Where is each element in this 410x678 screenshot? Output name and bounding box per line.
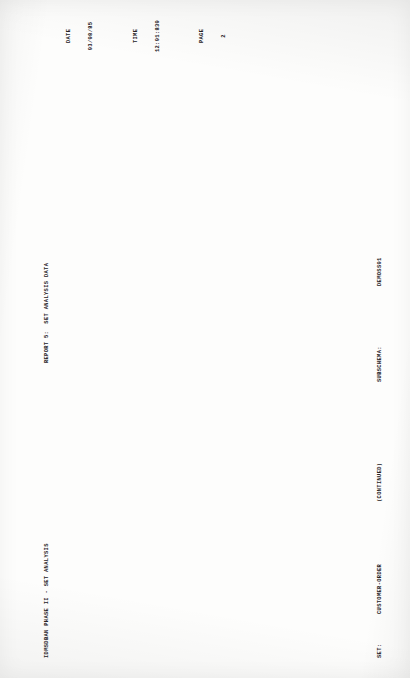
spacer — [295, 18, 302, 658]
spacer — [406, 18, 410, 658]
continued-marker: (CONTINUED) — [377, 382, 384, 502]
date-label: DATE — [66, 18, 73, 54]
time-stamp: TIME 12:01:830 — [118, 18, 177, 54]
set-label: SET: — [377, 614, 384, 658]
header-stamp-group: DATE 03/08/85 TIME 12:01:830 PAGE 2 — [44, 18, 251, 83]
spacer — [318, 18, 325, 658]
set-row: SET: CUSTOMER-ORDER (CONTINUED) SUBSCHEM… — [377, 18, 384, 658]
report-body: IDMSDBAN PHASE II - SET ANALYSIS REPORT … — [0, 0, 410, 678]
program-title: IDMSDBAN PHASE II - SET ANALYSIS — [44, 543, 51, 658]
time-value: 12:01:830 — [155, 18, 162, 54]
time-label: TIME — [133, 18, 140, 54]
report-title: REPORT 5: SET ANALYSIS DATA — [44, 263, 51, 363]
page-number: PAGE 2 — [184, 18, 243, 54]
printout-page: IDMSDBAN PHASE II - SET ANALYSIS REPORT … — [0, 0, 410, 678]
page-header: IDMSDBAN PHASE II - SET ANALYSIS REPORT … — [44, 18, 251, 658]
page-value: 2 — [221, 18, 228, 54]
date-stamp: DATE 03/08/85 — [51, 18, 110, 54]
set-value: CUSTOMER-ORDER — [377, 502, 384, 614]
subschema-label: SUBSCHEMA: — [377, 286, 384, 382]
spacer — [273, 18, 280, 658]
spacer — [340, 18, 347, 658]
date-value: 03/08/85 — [88, 18, 95, 54]
subschema-value: DEMOSS01 — [377, 257, 384, 286]
page-label: PAGE — [199, 18, 206, 54]
